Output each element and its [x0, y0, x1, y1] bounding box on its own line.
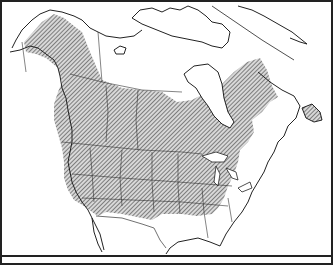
- map-frame: [0, 0, 333, 265]
- coastline-gulf: [166, 238, 220, 254]
- arctic-island-small: [114, 46, 126, 54]
- arctic-islands: [132, 6, 230, 48]
- greenland: [238, 6, 307, 44]
- map-caption: [6, 258, 326, 265]
- range-map: [2, 2, 331, 255]
- mexico-border: [96, 216, 166, 248]
- caption-divider: [2, 255, 331, 257]
- newfoundland: [302, 104, 322, 122]
- baffin-strait-line: [212, 6, 294, 60]
